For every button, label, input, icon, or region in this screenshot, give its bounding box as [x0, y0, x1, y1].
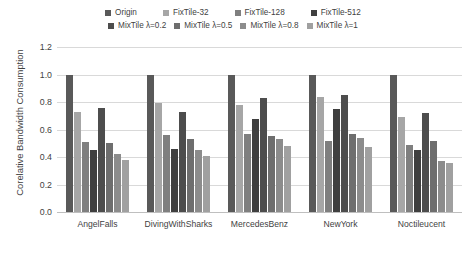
legend-item-label: MixTile λ=0.5 — [184, 21, 232, 31]
legend-item[interactable]: FixTile-32 — [163, 8, 209, 18]
bar[interactable] — [325, 141, 332, 213]
legend-item[interactable]: MixTile λ=0.2 — [108, 21, 166, 31]
legend-item-label: MixTile λ=0.2 — [118, 21, 166, 31]
bar-group — [219, 47, 300, 212]
bar[interactable] — [195, 150, 202, 212]
y-axis-tick-label: 0.6 — [26, 125, 52, 135]
legend-swatch-icon — [240, 23, 246, 29]
legend-item[interactable]: FixTile-128 — [235, 8, 285, 18]
y-axis-tick-label: 1.2 — [26, 42, 52, 52]
bar[interactable] — [260, 98, 267, 212]
legend-item[interactable]: FixTile-512 — [311, 8, 361, 18]
x-axis-tick-labels: AngelFallsDivingWithSharksMercedesBenzNe… — [57, 219, 462, 229]
bar-chart: OriginFixTile-32FixTile-128FixTile-512 M… — [0, 0, 466, 257]
legend-item[interactable]: MixTile λ=0.8 — [240, 21, 298, 31]
x-axis-tick-label: DivingWithSharks — [138, 219, 219, 229]
y-axis-tick-label: 0.4 — [26, 152, 52, 162]
bar[interactable] — [244, 134, 251, 212]
bar[interactable] — [349, 134, 356, 212]
bar[interactable] — [90, 150, 97, 212]
bar[interactable] — [98, 108, 105, 213]
legend-swatch-icon — [174, 23, 180, 29]
x-axis-tick-label: AngelFalls — [57, 219, 138, 229]
legend-item[interactable]: Origin — [105, 8, 137, 18]
bar[interactable] — [357, 138, 364, 212]
bar[interactable] — [228, 75, 235, 213]
x-axis-line — [57, 212, 462, 213]
legend-item-label: FixTile-32 — [173, 8, 209, 18]
legend-item-label: MixTile λ=1 — [317, 21, 358, 31]
plot-wrapper: Corelative Bandwidth Consumption 1.21.00… — [0, 47, 466, 257]
bar-group — [381, 47, 462, 212]
chart-legend: OriginFixTile-32FixTile-128FixTile-512 M… — [0, 8, 466, 31]
bar[interactable] — [268, 136, 275, 212]
legend-swatch-icon — [105, 10, 111, 16]
bar[interactable] — [252, 119, 259, 213]
bar[interactable] — [309, 75, 316, 213]
x-axis-tick-label: MercedesBenz — [219, 219, 300, 229]
bar[interactable] — [341, 95, 348, 212]
bar[interactable] — [430, 141, 437, 213]
legend-item-label: FixTile-128 — [245, 8, 285, 18]
bar[interactable] — [187, 139, 194, 212]
y-axis-tick-labels: 1.21.00.80.60.40.20.0 — [26, 47, 52, 213]
bar[interactable] — [438, 161, 445, 212]
bar[interactable] — [147, 75, 154, 213]
legend-item[interactable]: MixTile λ=0.5 — [174, 21, 232, 31]
bar[interactable] — [422, 113, 429, 212]
legend-swatch-icon — [235, 10, 241, 16]
bar[interactable] — [122, 160, 129, 212]
bar[interactable] — [106, 143, 113, 212]
x-axis-tick-label: Noctileucent — [381, 219, 462, 229]
bar[interactable] — [203, 156, 210, 212]
legend-row-1: OriginFixTile-32FixTile-128FixTile-512 — [105, 8, 361, 18]
bar-group — [57, 47, 138, 212]
legend-item[interactable]: MixTile λ=1 — [307, 21, 358, 31]
legend-swatch-icon — [307, 23, 313, 29]
legend-item-label: MixTile λ=0.8 — [250, 21, 298, 31]
bar-groups — [57, 47, 462, 212]
legend-row-2: MixTile λ=0.2MixTile λ=0.5MixTile λ=0.8M… — [108, 21, 358, 31]
bar[interactable] — [66, 75, 73, 213]
bar[interactable] — [163, 135, 170, 212]
bar[interactable] — [155, 103, 162, 212]
bar[interactable] — [179, 112, 186, 212]
legend-item-label: Origin — [115, 8, 137, 18]
bar[interactable] — [276, 139, 283, 212]
y-axis-tick-label: 0.2 — [26, 180, 52, 190]
bar-group — [138, 47, 219, 212]
bar[interactable] — [333, 109, 340, 212]
bar[interactable] — [414, 150, 421, 212]
legend-swatch-icon — [163, 10, 169, 16]
bar[interactable] — [82, 142, 89, 212]
legend-swatch-icon — [311, 10, 317, 16]
plot-area — [57, 47, 462, 213]
bar[interactable] — [114, 154, 121, 212]
y-axis-tick-label: 0.0 — [26, 207, 52, 217]
x-axis-tick-label: NewYork — [300, 219, 381, 229]
bar[interactable] — [74, 112, 81, 212]
legend-swatch-icon — [108, 23, 114, 29]
y-axis-tick-label: 1.0 — [26, 70, 52, 80]
bar[interactable] — [398, 117, 405, 212]
bar[interactable] — [365, 147, 372, 212]
bar[interactable] — [171, 149, 178, 212]
bar-group — [300, 47, 381, 212]
bar[interactable] — [446, 163, 453, 213]
bar[interactable] — [284, 146, 291, 212]
y-axis-title: Corelative Bandwidth Consumption — [14, 38, 25, 208]
bar[interactable] — [390, 75, 397, 213]
bar[interactable] — [236, 105, 243, 212]
bar[interactable] — [317, 97, 324, 213]
legend-item-label: FixTile-512 — [321, 8, 361, 18]
bar[interactable] — [406, 145, 413, 212]
y-axis-tick-label: 0.8 — [26, 97, 52, 107]
